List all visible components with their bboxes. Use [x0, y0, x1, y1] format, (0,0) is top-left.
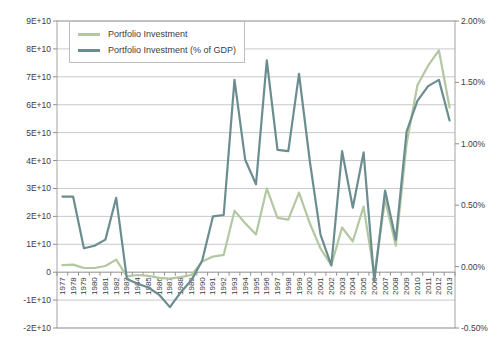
x-axis-label: 2005	[359, 277, 368, 295]
x-axis-label: 2009	[402, 277, 411, 295]
left-axis-label: 3E+10	[26, 183, 51, 193]
x-axis-label: 1997	[273, 277, 282, 295]
x-axis-label: 1977	[58, 277, 67, 295]
x-axis-label: 2004	[348, 277, 357, 295]
x-axis-label: 1995	[252, 277, 261, 295]
right-axis-label: 0.50%	[461, 200, 486, 210]
right-axis-label: 2.00%	[461, 16, 486, 26]
left-axis-label: 6E+10	[26, 100, 51, 110]
x-axis-label: 1978	[69, 277, 78, 295]
right-axis-label: 1.00%	[461, 139, 486, 149]
x-axis-label: 2002	[327, 277, 336, 295]
legend-label-portfolio-investment-pct-gdp: Portfolio Investment (% of GDP)	[108, 45, 236, 55]
x-axis-label: 2011	[424, 277, 433, 295]
right-axis-label: 0.00%	[461, 262, 486, 272]
x-axis-label: 1996	[262, 277, 271, 295]
left-axis-label: 7E+10	[26, 72, 51, 82]
x-axis-label: 1999	[295, 277, 304, 295]
left-axis-label: 0	[46, 267, 51, 277]
series-dark-swatch	[78, 49, 100, 52]
left-axis-label: 8E+10	[26, 44, 51, 54]
chart: 9E+108E+107E+106E+105E+104E+103E+102E+10…	[0, 0, 504, 347]
x-axis-label: 2010	[413, 277, 422, 295]
series-portfolio-investment-pct-gdp-line	[62, 60, 449, 307]
left-axis-label: 4E+10	[26, 156, 51, 166]
legend: Portfolio Investment Portfolio Investmen…	[69, 21, 245, 63]
x-axis-label: 2007	[381, 277, 390, 295]
x-axis-label: 1993	[230, 277, 239, 295]
x-axis-label: 1979	[79, 277, 88, 295]
left-axis-label: 9E+10	[26, 16, 51, 26]
left-axis-label: 5E+10	[26, 128, 51, 138]
x-axis-label: 2000	[305, 277, 314, 295]
x-axis-label: 1998	[284, 277, 293, 295]
x-axis-label: 1982	[112, 277, 121, 295]
x-axis-label: 1992	[219, 277, 228, 295]
right-axis-label: 1.50%	[461, 77, 486, 87]
left-axis-label: 2E+10	[26, 211, 51, 221]
left-axis-label: 1E+10	[26, 239, 51, 249]
x-axis-label: 2008	[391, 277, 400, 295]
legend-label-portfolio-investment: Portfolio Investment	[108, 29, 188, 39]
left-axis-label: -2E+10	[23, 323, 51, 333]
x-axis-label: 1990	[198, 277, 207, 295]
legend-item-portfolio-investment-pct-gdp: Portfolio Investment (% of GDP)	[78, 42, 236, 58]
x-axis-label: 2001	[316, 277, 325, 295]
series-light-swatch	[78, 33, 100, 36]
left-axis-label: -1E+10	[23, 295, 51, 305]
x-axis-label: 2013	[445, 277, 454, 295]
x-axis-label: 2012	[434, 277, 443, 295]
x-axis-label: 2003	[338, 277, 347, 295]
legend-item-portfolio-investment: Portfolio Investment	[78, 26, 236, 42]
x-axis-label: 1991	[208, 277, 217, 295]
x-axis-label: 1981	[101, 277, 110, 295]
x-axis-label: 1994	[241, 277, 250, 295]
x-axis-label: 1980	[90, 277, 99, 295]
right-axis-label: -0.50%	[461, 323, 488, 333]
